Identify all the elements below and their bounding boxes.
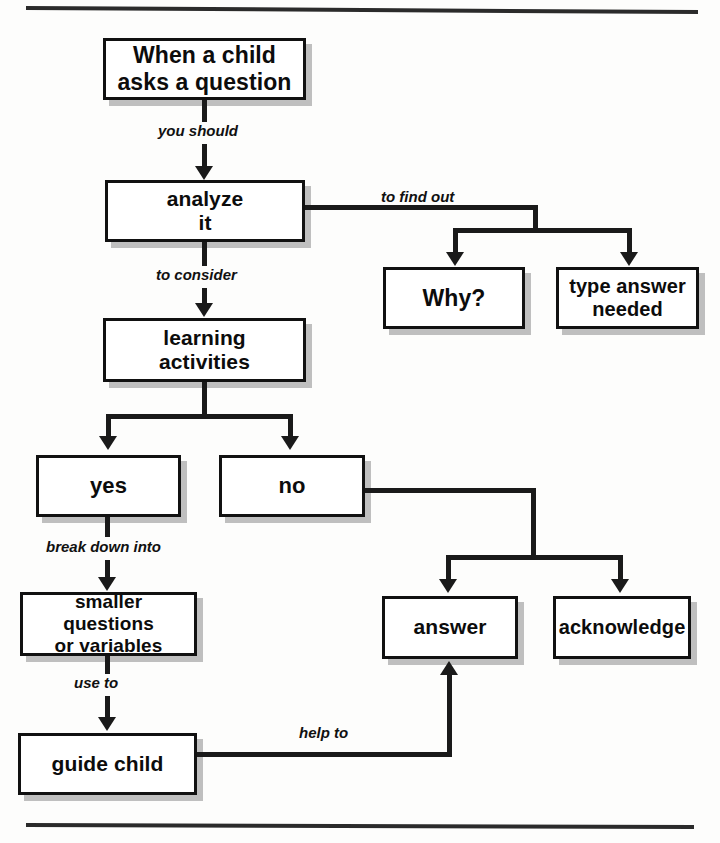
connector-no-to-answer	[446, 555, 451, 581]
top-rule	[26, 6, 698, 14]
node-analyze[interactable]: analyze it	[105, 180, 305, 242]
connector-analyze-to-findout-horizontal	[305, 205, 538, 210]
connector-no-to-split-horizontal	[365, 488, 536, 493]
arrow-question-to-analyze	[195, 166, 213, 180]
edge-label-help-to: help to	[296, 724, 351, 741]
arrow-no-to-answer	[439, 579, 457, 593]
bottom-rule	[26, 823, 694, 829]
arrow-guide-to-answer	[440, 661, 458, 675]
node-no[interactable]: no	[219, 455, 365, 517]
connector-findout-to-type-answer	[627, 228, 632, 254]
connector-no-split-drop	[531, 488, 536, 558]
node-why[interactable]: Why?	[383, 267, 525, 329]
arrow-learning-to-no	[281, 436, 299, 450]
arrow-yes-to-smaller	[98, 577, 116, 591]
arrow-no-to-acknowledge	[611, 579, 629, 593]
connector-analyze-to-learning-upper	[202, 242, 207, 266]
flowchart-page: When a child asks a question you should …	[0, 0, 720, 843]
connector-learning-to-no	[288, 414, 293, 438]
edge-label-break-down-into: break down into	[43, 538, 164, 555]
connector-yes-to-smaller-lower	[105, 560, 110, 578]
connector-findout-to-why	[453, 228, 458, 254]
connector-guide-to-answer-horizontal	[197, 752, 452, 757]
connector-learning-stem	[202, 382, 207, 418]
node-type-answer[interactable]: type answer needed	[556, 267, 699, 329]
connector-no-split-bar	[446, 555, 623, 560]
node-answer[interactable]: answer	[382, 596, 518, 659]
edge-label-to-find-out: to find out	[378, 188, 457, 205]
connector-no-to-acknowledge	[618, 555, 623, 581]
connector-smaller-to-guide-lower	[105, 696, 110, 718]
arrow-learning-to-yes	[99, 436, 117, 450]
node-smaller-questions[interactable]: smaller questions or variables	[20, 592, 197, 656]
connector-learning-split-bar	[106, 414, 293, 419]
arrow-analyze-to-learning	[195, 303, 213, 317]
node-learning-activities[interactable]: learning activities	[103, 318, 306, 382]
node-question[interactable]: When a child asks a question	[103, 38, 306, 100]
connector-learning-to-yes	[106, 414, 111, 438]
connector-question-to-analyze-upper	[202, 100, 207, 122]
arrow-findout-to-why	[446, 252, 464, 266]
arrow-findout-to-type-answer	[620, 252, 638, 266]
node-acknowledge[interactable]: acknowledge	[553, 596, 691, 659]
edge-label-to-consider: to consider	[153, 266, 240, 283]
node-guide-child[interactable]: guide child	[18, 733, 197, 795]
connector-smaller-to-guide-upper	[105, 656, 110, 674]
connector-yes-to-smaller-upper	[105, 517, 110, 537]
connector-guide-to-answer-vertical	[447, 675, 452, 752]
node-yes[interactable]: yes	[36, 455, 181, 517]
connector-analyze-to-learning-lower	[202, 288, 207, 304]
connector-question-to-analyze-lower	[202, 144, 207, 166]
edge-label-you-should: you should	[155, 122, 241, 139]
arrow-smaller-to-guide	[98, 717, 116, 731]
edge-label-use-to: use to	[71, 674, 121, 691]
connector-findout-split-bar	[453, 228, 632, 233]
